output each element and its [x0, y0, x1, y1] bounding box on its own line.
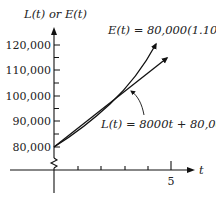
y-axis-arrow-icon	[51, 27, 57, 35]
exponential-curve-e	[54, 44, 156, 147]
linear-line-l	[54, 58, 167, 147]
x-axis-title: t	[199, 163, 204, 177]
y-tick-label-90000: 90,000	[13, 115, 52, 128]
y-tick-label-120000: 120,000	[6, 39, 52, 52]
y-ticks	[54, 45, 60, 147]
label-pointer-arrow-icon	[131, 91, 144, 115]
y-tick-label-110000: 110,000	[6, 64, 52, 77]
linear-equation-label: L(t) = 8000t + 80,000	[100, 117, 216, 131]
y-axis	[51, 30, 57, 193]
x-tick-label-5: 5	[168, 175, 175, 188]
y-tick-label-80000: 80,000	[13, 141, 52, 154]
exponential-equation-label: E(t) = 80,000(1.10)t	[107, 22, 216, 37]
growth-comparison-chart: L(t) or E(t) 120,000 110,000 100,000 90,…	[0, 0, 216, 201]
x-axis-arrow-icon	[187, 167, 195, 173]
x-axis	[10, 161, 190, 170]
y-axis-title: L(t) or E(t)	[23, 7, 87, 21]
y-tick-label-100000: 100,000	[6, 90, 52, 103]
